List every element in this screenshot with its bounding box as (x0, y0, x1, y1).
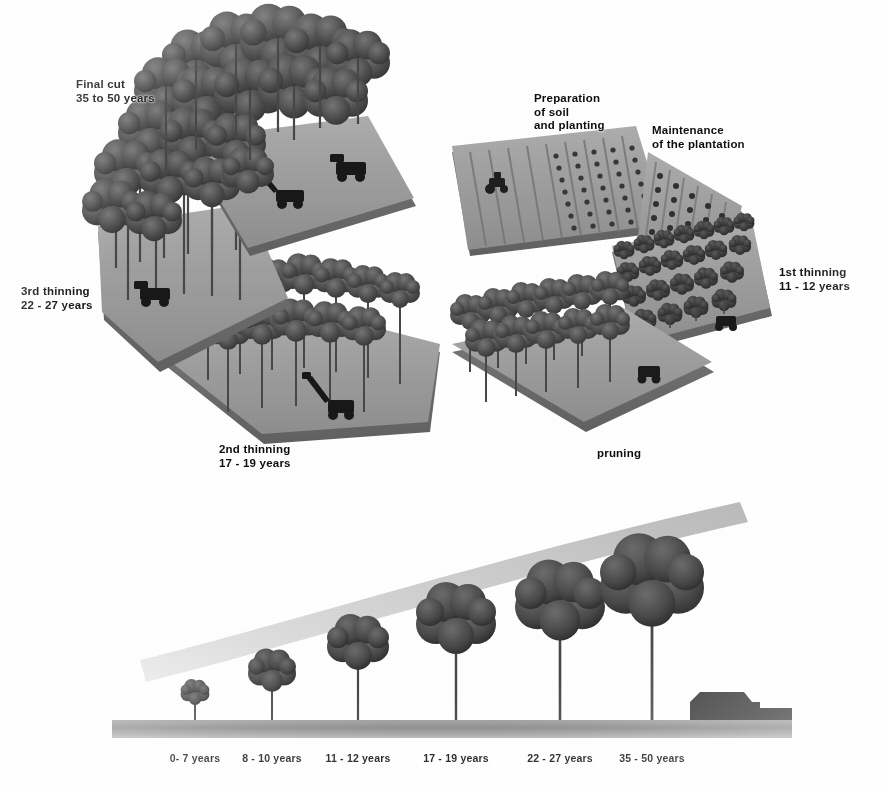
label-preparation: Preparation of soil and planting (534, 92, 605, 133)
timeline-label-4: 22 - 27 years (510, 752, 610, 764)
label-first-thinning: 1st thinning 11 - 12 years (779, 266, 850, 293)
timeline-trees (181, 533, 704, 722)
timeline-label-1: 8 - 10 years (222, 752, 322, 764)
forestry-lifecycle-diagram: Final cut 35 to 50 years Preparation of … (0, 0, 887, 792)
label-pruning: pruning (597, 447, 641, 461)
segment-preparation (452, 126, 668, 256)
timeline-label-3: 17 - 19 years (406, 752, 506, 764)
growth-timeline-graphic (0, 492, 887, 792)
label-maintenance: Maintenance of the plantation (652, 124, 745, 151)
timeline-label-5: 35 - 50 years (602, 752, 702, 764)
segment-final-cut (82, 4, 416, 256)
forest-vehicle-icon (715, 316, 737, 331)
label-second-thinning: 2nd thinning 17 - 19 years (219, 443, 291, 470)
timeline-ticks (358, 614, 652, 720)
label-final-cut: Final cut 35 to 50 years (76, 78, 155, 105)
label-third-thinning: 3rd thinning 22 - 27 years (21, 285, 93, 312)
log-truck-icon (690, 692, 792, 720)
cycle-ring-graphic (0, 0, 887, 500)
timeline-label-2: 11 - 12 years (308, 752, 408, 764)
